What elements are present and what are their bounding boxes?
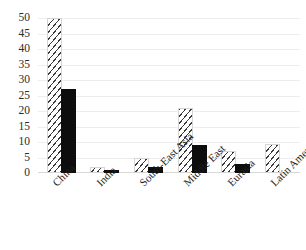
y-tick-45: 45 [19, 28, 31, 40]
bar-group-china [38, 18, 82, 173]
x-tick-india: India [82, 176, 126, 250]
y-tick-20: 20 [19, 105, 31, 117]
y-tick-10: 10 [19, 136, 31, 148]
x-tick-eurasia: Eurasia [213, 176, 257, 250]
x-tick-china: China [38, 176, 82, 250]
y-tick-35: 35 [19, 59, 31, 71]
y-tick-5: 5 [24, 152, 30, 164]
bar-hatched-china [47, 18, 62, 173]
bar-group-south-east-asia [125, 18, 169, 173]
x-tick-south-east-asia: South-East Asia [125, 176, 169, 250]
y-tick-15: 15 [19, 121, 31, 133]
y-tick-0: 0 [24, 167, 30, 179]
bar-chart: 50 45 40 35 30 25 20 15 10 5 0 [0, 0, 306, 250]
y-tick-50: 50 [19, 12, 31, 24]
bar-group-india [82, 18, 126, 173]
y-tick-40: 40 [19, 43, 31, 55]
x-tick-latin-america: Latin America [256, 176, 300, 250]
bar-group-latin-america [256, 18, 300, 173]
y-tick-30: 30 [19, 74, 31, 86]
x-axis: China India South-East Asia Middle East … [38, 176, 300, 250]
x-tick-middle-east: Middle East [169, 176, 213, 250]
y-axis: 50 45 40 35 30 25 20 15 10 5 0 [0, 0, 34, 250]
y-tick-25: 25 [19, 90, 31, 102]
